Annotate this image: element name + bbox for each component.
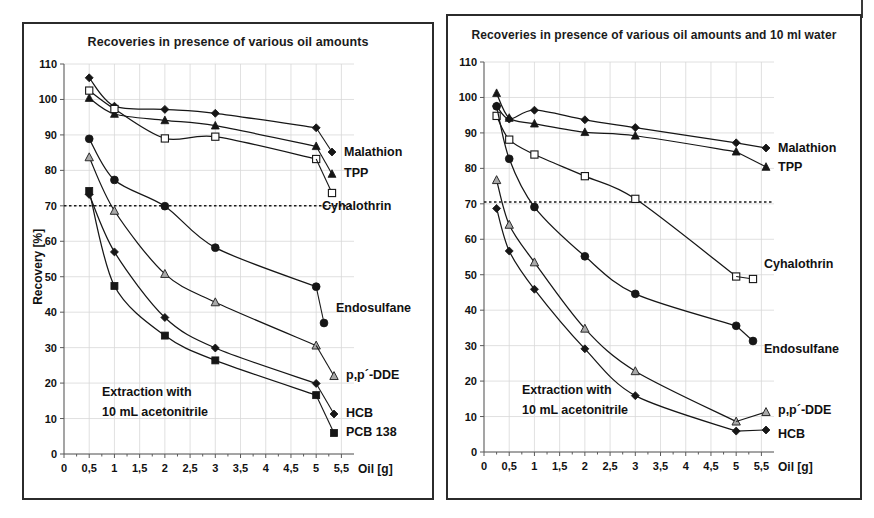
series-label-tpp: TPP: [344, 166, 368, 180]
x-tick-label: 3: [632, 460, 638, 472]
x-tick-label: 1: [531, 460, 537, 472]
y-tick-label: 50: [465, 269, 477, 281]
series-p-p-dde-marker-triangle-open: [492, 176, 500, 184]
x-tick-label: 5,5: [334, 462, 349, 474]
series-malathion-marker-diamond: [211, 109, 219, 117]
x-tick-label: 1,5: [552, 460, 567, 472]
x-tick-label: 2,5: [602, 460, 617, 472]
series-hcb-marker-diamond: [505, 247, 513, 255]
series-label-ddE: p,p´-DDE: [346, 368, 399, 382]
chart-panel-right: Recoveries in presence of various oil am…: [446, 14, 862, 500]
series-p-p-dde-marker-triangle-open: [631, 367, 639, 375]
series-label-group: Endosulfane: [316, 287, 411, 327]
series-pcb-138-marker-square: [111, 282, 118, 289]
series-endosulfane-marker-circle: [581, 252, 589, 260]
series-cyhalothrin-marker-square-open: [632, 195, 639, 202]
series-endosulfane-marker-circle: [531, 203, 539, 211]
series-line: [89, 191, 316, 395]
series-tpp-marker-triangle: [85, 94, 93, 102]
series-label-hcb: HCB: [778, 427, 805, 441]
series-label-group: HCB: [736, 426, 805, 441]
y-tick-label: 0: [471, 446, 477, 458]
series-label-group: p,p´-DDE: [316, 346, 399, 382]
y-tick-label: 20: [45, 377, 57, 389]
y-tick-label: 40: [45, 306, 57, 318]
series-label-hcb: HCB: [346, 406, 373, 420]
series-label-malathion: Malathion: [344, 145, 402, 159]
legend-cyhalothrin-marker-square-open: [328, 189, 335, 196]
y-tick-label: 110: [39, 58, 57, 70]
x-tick-label: 1,5: [132, 462, 147, 474]
series-label-cyhalothrin: Cyhalothrin: [322, 199, 391, 213]
leader-line: [316, 287, 324, 323]
x-tick-label: 5,5: [754, 460, 769, 472]
legend-endosulfane-marker-circle: [320, 319, 328, 327]
series-label-endosulfane: Endosulfane: [764, 342, 839, 356]
series-tpp-marker-triangle: [493, 89, 501, 97]
y-tick-label: 100: [459, 91, 477, 103]
series-malathion-marker-diamond: [631, 124, 639, 132]
series-p-p-dde-marker-triangle-open: [211, 298, 219, 306]
series-endosulfane-marker-circle: [211, 244, 219, 252]
y-tick-label: 10: [45, 413, 57, 425]
series-cyhalothrin-marker-square-open: [581, 173, 588, 180]
annotation-line-2: 10 mL acetonitrile: [522, 403, 628, 417]
series-malathion-marker-diamond: [161, 105, 169, 113]
series-cyhalothrin-marker-square-open: [212, 133, 219, 140]
x-tick-label: 2: [582, 460, 588, 472]
series-hcb-marker-diamond: [631, 392, 639, 400]
x-tick-label: 3: [212, 462, 218, 474]
legend-ddE-marker-triangle-open: [330, 372, 338, 380]
legend-hcb-marker-diamond: [330, 410, 338, 418]
legend-tpp-marker-triangle: [328, 170, 336, 178]
series-label-group: TPP: [736, 152, 802, 174]
x-axis-title: Oil [g]: [358, 462, 393, 476]
series-label-endosulfane: Endosulfane: [336, 301, 411, 315]
y-tick-label: 0: [51, 448, 57, 460]
y-tick-label: 100: [39, 93, 57, 105]
left-chart-plot: 010203040506070809010011000,511,522,533,…: [24, 24, 432, 498]
y-tick-label: 60: [465, 233, 477, 245]
annotation-line-1: Extraction with: [522, 383, 612, 397]
x-tick-label: 3,5: [233, 462, 248, 474]
series-label-group: Malathion: [316, 128, 402, 159]
series-group-malathion: [85, 74, 320, 132]
y-tick-label: 70: [465, 198, 477, 210]
series-group-tpp: [493, 89, 740, 155]
legend-malathion-marker-diamond: [762, 144, 770, 152]
y-tick-label: 90: [465, 127, 477, 139]
series-group-p-p-dde: [85, 153, 320, 349]
series-line: [89, 78, 316, 128]
x-tick-label: 4,5: [283, 462, 298, 474]
x-tick-label: 0: [481, 460, 487, 472]
series-pcb-138-marker-square: [161, 332, 168, 339]
x-tick-label: 4: [683, 460, 690, 472]
legend-hcb-marker-diamond: [762, 426, 770, 434]
y-tick-label: 80: [465, 162, 477, 174]
series-cyhalothrin-marker-square-open: [86, 87, 93, 94]
series-line: [497, 116, 737, 277]
y-tick-label: 80: [45, 164, 57, 176]
series-malathion-marker-diamond: [581, 116, 589, 124]
series-line: [89, 91, 316, 159]
chart-panel-left: Recoveries in presence of various oil am…: [22, 22, 434, 500]
series-cyhalothrin-marker-square-open: [531, 151, 538, 158]
series-endosulfane-marker-circle: [505, 155, 513, 163]
x-tick-label: 2,5: [182, 462, 197, 474]
series-label-malathion: Malathion: [778, 141, 836, 155]
legend-pcb-marker-square: [331, 430, 338, 437]
series-pcb-138-marker-square: [212, 357, 219, 364]
series-pcb-138-marker-square: [86, 187, 93, 194]
y-tick-label: 30: [45, 342, 57, 354]
series-hcb-marker-diamond: [211, 344, 219, 352]
series-endosulfane-marker-circle: [631, 290, 639, 298]
series-label-group: Cyhalothrin: [736, 257, 833, 283]
x-tick-label: 5: [313, 462, 319, 474]
series-label-tpp: TPP: [778, 160, 802, 174]
x-tick-label: 0: [61, 462, 67, 474]
series-malathion-marker-diamond: [530, 106, 538, 114]
series-group-cyhalothrin: [86, 87, 320, 163]
legend-tpp-marker-triangle: [762, 163, 770, 171]
annotation-line-1: Extraction with: [102, 385, 192, 399]
series-label-group: Endosulfane: [736, 326, 839, 356]
